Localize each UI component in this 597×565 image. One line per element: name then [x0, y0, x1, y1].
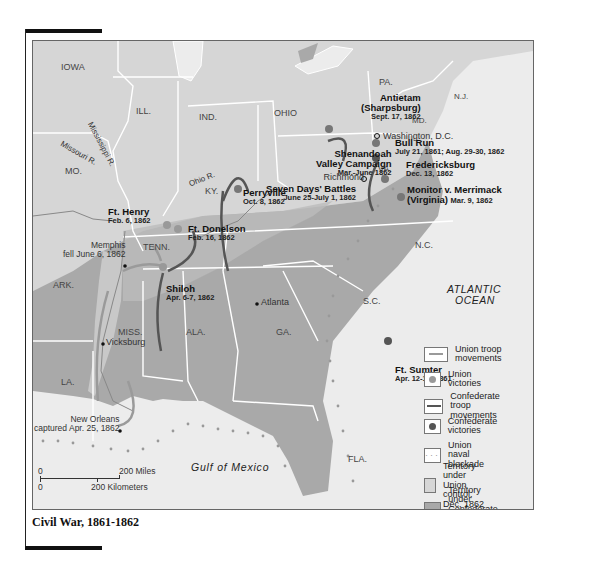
- starburst-icon: [424, 372, 441, 387]
- state-label-sc: S.C.: [363, 297, 381, 306]
- top-rule: [25, 29, 102, 33]
- state-label-iowa: IOWA: [61, 63, 85, 72]
- city-label-memphis: Memphis fell June 6, 1862: [63, 241, 125, 259]
- state-label-pa: PA.: [379, 78, 393, 87]
- arrow-left-icon: [424, 399, 443, 414]
- dotted-line-icon: ···: [424, 448, 441, 463]
- swatch-confederate: [424, 502, 441, 510]
- city-label-atlanta: Atlanta: [261, 298, 289, 307]
- scale-zero-miles: 0: [38, 467, 43, 476]
- scale-km: 200 Kilometers: [91, 483, 148, 492]
- legend-confederate-territory: Territory underConfederate control,Dec. …: [424, 486, 505, 510]
- map-frame: IOWA ILL. IND. OHIO PA. N.J. MD. MO. KY.…: [32, 40, 534, 510]
- state-label-ill: ILL.: [136, 107, 151, 116]
- gulf-label: Gulf of Mexico: [191, 462, 269, 473]
- state-label-ala: ALA.: [186, 328, 206, 337]
- battle-monitor-merrimack: Monitor v. Merrimack (Virginia) Mar. 9, …: [407, 185, 502, 205]
- scale-tick: [119, 475, 120, 479]
- state-label-ky: KY.: [205, 187, 218, 196]
- starburst-icon: [424, 419, 441, 434]
- state-label-ark: ARK.: [53, 281, 74, 290]
- state-label-ohio: OHIO: [274, 109, 297, 118]
- ocean-label-atlantic: ATLANTIC OCEAN: [447, 284, 501, 306]
- bottom-rule: [25, 546, 102, 550]
- state-label-ga: GA.: [276, 328, 292, 337]
- battle-perryville: Perryville Oct. 8, 1862: [243, 188, 286, 206]
- arrow-left-icon: [424, 347, 448, 362]
- state-label-nc: N.C.: [415, 241, 433, 250]
- scale-bar: [40, 478, 120, 479]
- state-label-nj: N.J.: [454, 93, 468, 101]
- legend-union-victories: Union victories: [424, 370, 488, 389]
- battle-bull-run: Bull Run July 21, 1861; Aug. 29-30, 1862: [395, 138, 504, 156]
- state-label-la: LA.: [61, 378, 75, 387]
- battle-shiloh: Shiloh Apr. 6-7, 1862: [166, 284, 214, 302]
- state-label-fla: FLA.: [348, 455, 367, 464]
- state-label-ind: IND.: [199, 113, 217, 122]
- scale-miles: 200 Miles: [119, 467, 155, 476]
- battle-ft-henry: Ft. Henry Feb. 6, 1862: [108, 207, 151, 225]
- battle-fredericksburg: Fredericksburg Dec. 13, 1862: [406, 160, 475, 178]
- legend-confederate-victories: Confederate victories: [424, 417, 505, 436]
- legend-union-troop-movements: Union troopmovements: [424, 345, 502, 364]
- state-label-tenn: TENN.: [143, 243, 170, 252]
- map-caption: Civil War, 1861-1862: [32, 515, 139, 530]
- left-rule: [25, 29, 26, 549]
- scale-zero-km: 0: [38, 483, 43, 492]
- city-label-vicksburg: Vicksburg: [106, 338, 145, 347]
- battle-antietam: Antietam (Sharpsburg) Sept. 17, 1862: [361, 93, 421, 121]
- state-label-mo: MO.: [65, 167, 82, 176]
- battle-shenandoah: Shenandoah Valley Campaign Mar.-June 186…: [316, 149, 392, 177]
- battle-ft-donelson: Ft. Donelson Feb. 16, 1862: [188, 224, 246, 242]
- city-label-new-orleans: New Orleans captured Apr. 25, 1862: [34, 415, 120, 433]
